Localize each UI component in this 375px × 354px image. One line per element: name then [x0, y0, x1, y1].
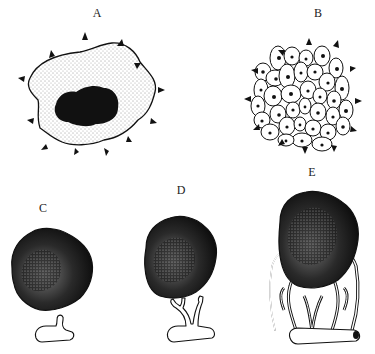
panel-c: C [12, 201, 93, 342]
vessel-sprout-c [35, 315, 73, 342]
parent-vessel-e [289, 328, 359, 344]
panel-b: B [244, 6, 362, 154]
panel-label-b: B [314, 6, 322, 20]
panel-d: D [145, 183, 217, 342]
panel-label-a: A [93, 6, 102, 20]
panel-label-e: E [308, 165, 315, 179]
panel-e: E [270, 165, 360, 344]
vessel-branches-d [167, 296, 214, 342]
panel-label-c: C [39, 201, 47, 215]
panel-a: A [18, 6, 165, 156]
vessel-lumen-e [353, 331, 359, 339]
cell-cluster [251, 46, 353, 151]
panel-label-d: D [177, 183, 186, 197]
tumor-growth-figure: A B [0, 0, 375, 354]
